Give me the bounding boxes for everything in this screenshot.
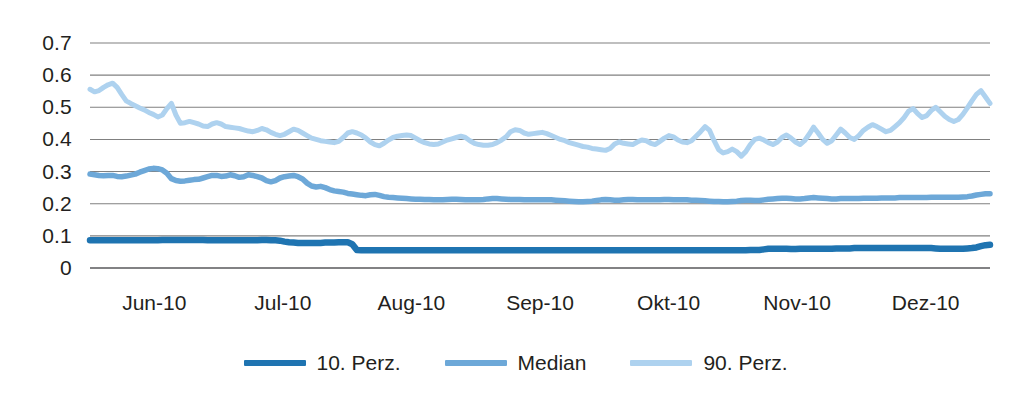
x-axis-tick-label: Okt-10 [609,292,729,313]
y-axis-tick-label: 0.5 [0,96,72,117]
y-axis-tick-label: 0.3 [0,161,72,182]
legend-item[interactable]: 10. Perz. [244,352,401,373]
legend-color-swatch [630,360,692,366]
plot-area [0,0,1031,405]
legend-color-swatch [445,360,507,366]
x-axis-tick-label: Jun-10 [94,292,214,313]
x-axis-tick-label: Nov-10 [737,292,857,313]
x-axis-tick-label: Sep-10 [480,292,600,313]
x-axis-tick-label: Aug-10 [351,292,471,313]
legend-label: 90. Perz. [703,352,787,373]
y-axis-tick-label: 0.1 [0,225,72,246]
x-axis-tick-label: Jul-10 [223,292,343,313]
series-line [90,83,990,156]
y-axis-tick-label: 0 [0,257,72,278]
legend-item[interactable]: 90. Perz. [630,352,787,373]
y-axis-tick-label: 0.2 [0,193,72,214]
y-axis-tick-label: 0.6 [0,64,72,85]
gridlines [90,43,990,268]
series-lines [90,83,990,250]
legend-color-swatch [244,360,306,366]
chart-legend: 10. Perz.Median90. Perz. [0,352,1031,373]
legend-label: 10. Perz. [317,352,401,373]
x-axis-tick-label: Dez-10 [866,292,986,313]
y-axis-tick-label: 0.7 [0,32,72,53]
legend-item[interactable]: Median [445,352,587,373]
legend-label: Median [518,352,587,373]
y-axis-tick-label: 0.4 [0,128,72,149]
series-line [90,240,990,250]
line-chart: 0.70.60.50.40.30.20.10 Jun-10Jul-10Aug-1… [0,0,1031,405]
series-line [90,168,990,201]
